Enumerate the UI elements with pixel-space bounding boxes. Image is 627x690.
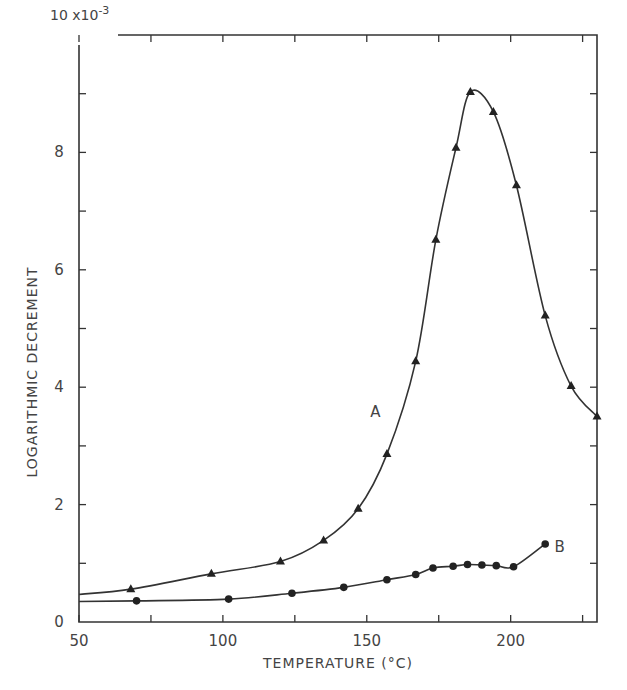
circle-marker xyxy=(340,584,348,592)
y-tick-label: 0 xyxy=(54,613,64,631)
circle-marker xyxy=(510,563,518,571)
y-tick-label: 2 xyxy=(54,496,64,514)
circle-marker xyxy=(225,595,233,603)
circle-marker xyxy=(429,564,437,572)
circle-marker xyxy=(449,562,457,570)
x-tick-label: 200 xyxy=(496,632,525,650)
circle-marker xyxy=(133,597,141,605)
circle-marker xyxy=(288,589,296,597)
x-tick-label: 50 xyxy=(69,632,88,650)
chart-plot-area: 5010015020002468AB xyxy=(0,0,627,690)
x-tick-label: 150 xyxy=(352,632,381,650)
series-label-A: A xyxy=(370,403,381,421)
series-B-line xyxy=(79,544,545,602)
y-tick-label: 8 xyxy=(54,143,64,161)
series-label-B: B xyxy=(554,538,564,556)
triangle-marker xyxy=(382,449,391,457)
y-tick-label: 4 xyxy=(54,378,64,396)
circle-marker xyxy=(492,562,500,570)
circle-marker xyxy=(478,561,486,569)
triangle-marker xyxy=(541,311,550,319)
triangle-marker xyxy=(451,143,460,151)
triangle-marker xyxy=(319,535,328,543)
axes-frame xyxy=(79,35,597,622)
triangle-marker xyxy=(489,107,498,115)
series-A-line xyxy=(79,90,597,594)
y-axis-title: LOGARITHMIC DECREMENT xyxy=(24,266,40,477)
x-tick-label: 100 xyxy=(209,632,238,650)
triangle-marker xyxy=(512,180,521,188)
circle-marker xyxy=(412,571,420,579)
triangle-marker xyxy=(567,381,576,389)
x-axis-title: TEMPERATURE (°C) xyxy=(263,655,413,671)
triangle-marker xyxy=(411,356,420,364)
triangle-marker xyxy=(431,235,440,243)
circle-marker xyxy=(464,561,472,569)
circle-marker xyxy=(383,576,391,584)
y-scale-label: 10 x10-3 xyxy=(50,4,109,23)
circle-marker xyxy=(541,540,549,548)
y-tick-label: 6 xyxy=(54,261,64,279)
